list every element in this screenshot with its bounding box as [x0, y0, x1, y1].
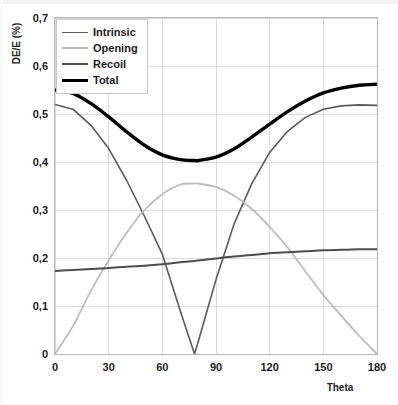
legend-item-recoil[interactable]: Recoil — [62, 56, 138, 72]
chart-legend: IntrinsicOpeningRecoilTotal — [56, 19, 148, 94]
chart-page: DE/E (%) 00,10,20,30,40,50,60,7 03060901… — [0, 0, 398, 405]
legend-item-opening[interactable]: Opening — [62, 40, 138, 56]
x-tick-label: 150 — [303, 362, 343, 373]
legend-label: Recoil — [93, 59, 126, 70]
legend-swatch-opening — [62, 47, 88, 49]
x-tick-label: 60 — [142, 362, 182, 373]
x-tick-label: 180 — [357, 362, 397, 373]
x-tick-label: 120 — [250, 362, 290, 373]
legend-item-total[interactable]: Total — [62, 72, 138, 88]
x-tick-label: 90 — [196, 362, 236, 373]
legend-swatch-intrinsic — [62, 32, 88, 33]
legend-label: Total — [93, 75, 118, 86]
legend-swatch-total — [62, 79, 88, 82]
legend-label: Opening — [93, 43, 138, 54]
x-axis-title: Theta — [300, 382, 380, 393]
x-tick-label: 30 — [89, 362, 129, 373]
legend-swatch-recoil — [62, 63, 88, 65]
legend-item-intrinsic[interactable]: Intrinsic — [62, 24, 138, 40]
legend-label: Intrinsic — [93, 27, 136, 38]
x-tick-label: 0 — [35, 362, 75, 373]
